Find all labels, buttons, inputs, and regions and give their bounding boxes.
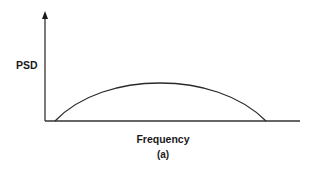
- figure-caption: (a): [157, 149, 169, 160]
- y-axis-arrow-icon: [42, 11, 48, 19]
- x-axis-label: Frequency: [136, 133, 189, 145]
- psd-figure: PSD Frequency (a): [0, 0, 316, 172]
- psd-curve: [55, 83, 266, 121]
- y-axis-label: PSD: [16, 59, 38, 71]
- psd-diagram: [0, 0, 316, 172]
